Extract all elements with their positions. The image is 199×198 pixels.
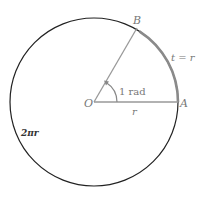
radian-diagram: B A O t = r 1 rad r 2πr bbox=[0, 0, 199, 198]
label-a: A bbox=[179, 97, 188, 110]
angle-arc bbox=[107, 83, 118, 102]
label-circumference: 2πr bbox=[20, 128, 40, 138]
label-o: O bbox=[84, 97, 93, 110]
label-angle: 1 rad bbox=[119, 86, 146, 97]
label-r: r bbox=[132, 106, 138, 117]
label-b: B bbox=[132, 14, 141, 27]
label-t-equals-r: t = r bbox=[171, 52, 196, 63]
